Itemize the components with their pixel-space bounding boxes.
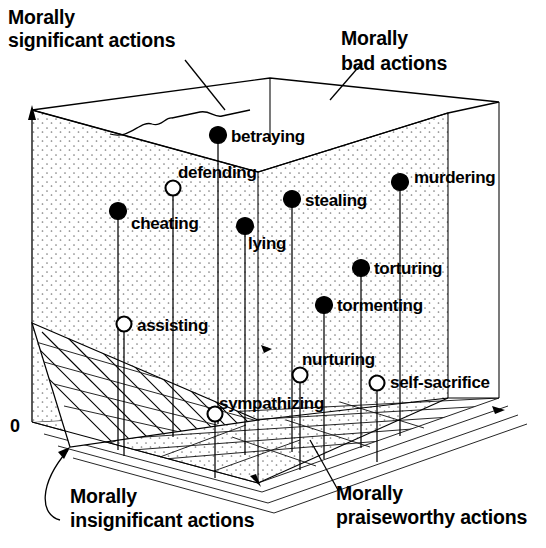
label-cheating: cheating — [131, 214, 199, 233]
marker-self-sacrifice — [370, 376, 385, 391]
marker-defending — [166, 181, 181, 196]
axis-title-insignificant-line1: Morally — [70, 485, 137, 507]
label-defending: defending — [178, 163, 257, 182]
label-stealing: stealing — [305, 191, 367, 210]
moral-actions-diagram: betraying defending cheating lying steal… — [0, 0, 546, 548]
label-betraying: betraying — [231, 127, 305, 146]
marker-nurturing — [293, 368, 308, 383]
label-murdering: murdering — [414, 168, 495, 187]
marker-lying — [237, 218, 254, 235]
marker-betraying — [210, 127, 227, 144]
axis-title-praiseworthy-line2: praiseworthy actions — [336, 506, 527, 528]
insignificant-arrowhead — [58, 447, 70, 459]
label-assisting: assisting — [137, 316, 208, 335]
label-tormenting: tormenting — [337, 296, 423, 315]
axis-title-insignificant-line2: insignificant actions — [70, 509, 255, 531]
figure-root: betraying defending cheating lying steal… — [0, 0, 546, 548]
horizontal-axis-arrowhead — [492, 406, 505, 414]
axis-title-bad-line1: Morally — [341, 27, 408, 49]
marker-tormenting — [316, 297, 333, 314]
axis-title-bad-line2: bad actions — [341, 52, 448, 74]
label-torturing: torturing — [374, 259, 442, 278]
origin-label: 0 — [10, 416, 20, 436]
marker-cheating — [110, 203, 127, 220]
marker-torturing — [353, 260, 370, 277]
right-side-panel — [448, 102, 499, 398]
axis-title-significant-line1: Morally — [8, 6, 75, 28]
label-self-sacrifice: self-sacrifice — [390, 373, 490, 392]
marker-assisting — [117, 317, 132, 332]
axis-title-praiseworthy-line1: Morally — [336, 482, 403, 504]
axis-title-significant-line2: significant actions — [8, 29, 176, 51]
label-lying: lying — [248, 234, 286, 253]
label-nurturing: nurturing — [302, 350, 375, 369]
marker-murdering — [392, 174, 409, 191]
marker-stealing — [284, 191, 301, 208]
label-sympathizing: sympathizing — [219, 394, 324, 413]
